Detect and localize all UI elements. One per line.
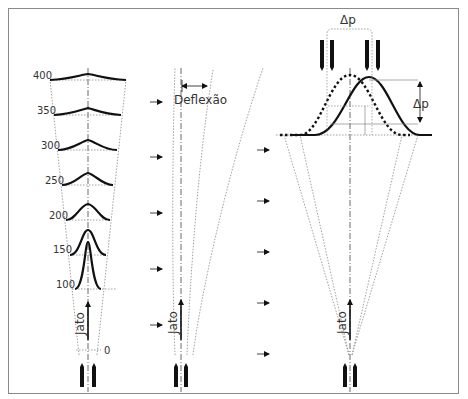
jet-deflection-diagram: 400 350 300 250 200 150 100 0 Jato [0, 0, 468, 399]
label-100: 100 [56, 279, 75, 290]
label-200: 200 [49, 210, 68, 221]
profile-350 [54, 108, 121, 115]
profile-250 [62, 173, 113, 185]
label-300: 300 [41, 140, 60, 151]
right-panel-pressure-shift: Δp Δp Jato [276, 13, 432, 392]
delta-p-top-label: Δp [340, 13, 356, 27]
crossflow-arrows-left [150, 102, 162, 325]
cone-right-edge [97, 80, 126, 355]
jet-label: Jato [335, 311, 349, 335]
crossflow-arrows-right [257, 150, 269, 354]
nozzle-icon [80, 363, 84, 387]
label-350: 350 [37, 105, 56, 116]
nozzle-icon [174, 363, 178, 387]
nozzle-icon [343, 363, 347, 387]
label-250: 250 [45, 175, 64, 186]
nozzle-icon [320, 40, 324, 71]
label-150: 150 [53, 244, 72, 255]
middle-panel-deflection: Deflexão Jato [166, 68, 263, 392]
deflection-label: Deflexão [174, 93, 227, 107]
delta-p-side-label: Δp [413, 97, 429, 111]
profile-300 [58, 140, 117, 150]
label-0: 0 [104, 345, 110, 356]
jet-label: Jato [73, 312, 87, 336]
jet-label: Jato [166, 311, 180, 335]
jet-boundary-outer [193, 68, 263, 355]
left-panel-jet-profiles: 400 350 300 250 200 150 100 0 Jato [33, 68, 126, 392]
label-400: 400 [33, 70, 52, 81]
